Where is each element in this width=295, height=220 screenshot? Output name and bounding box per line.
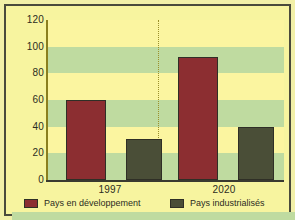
x-axis-line — [46, 180, 284, 182]
bars-layer — [48, 20, 284, 180]
y-tick-40: 40 — [8, 122, 44, 132]
legend-swatch-industrialized-icon — [170, 199, 184, 208]
legend-label-developing: Pays en développement — [44, 198, 141, 208]
x-tick-2020: 2020 — [194, 184, 254, 195]
y-tick-120: 120 — [8, 15, 44, 25]
legend-item-developing: Pays en développement — [24, 198, 141, 208]
x-axis-labels: 1997 2020 — [46, 184, 284, 198]
bar-2020-industrialized — [238, 127, 274, 180]
y-tick-0: 0 — [8, 175, 44, 185]
legend-bottom-strip — [12, 212, 295, 220]
legend-item-industrialized: Pays industrialisés — [170, 198, 265, 208]
chart-figure: 120 100 80 60 40 20 0 1997 2020 Pays en … — [0, 0, 295, 220]
bar-1997-developing — [66, 100, 106, 180]
y-axis-labels: 120 100 80 60 40 20 0 — [6, 6, 44, 220]
legend-label-industrialized: Pays industrialisés — [190, 198, 265, 208]
bar-2020-developing — [178, 57, 218, 180]
y-tick-80: 80 — [8, 68, 44, 78]
y-tick-60: 60 — [8, 95, 44, 105]
legend-swatch-developing-icon — [24, 199, 38, 208]
x-tick-1997: 1997 — [80, 184, 140, 195]
y-tick-20: 20 — [8, 148, 44, 158]
y-tick-100: 100 — [8, 42, 44, 52]
bar-1997-industrialized — [126, 139, 162, 180]
chart-frame: 120 100 80 60 40 20 0 1997 2020 Pays en … — [4, 4, 291, 216]
